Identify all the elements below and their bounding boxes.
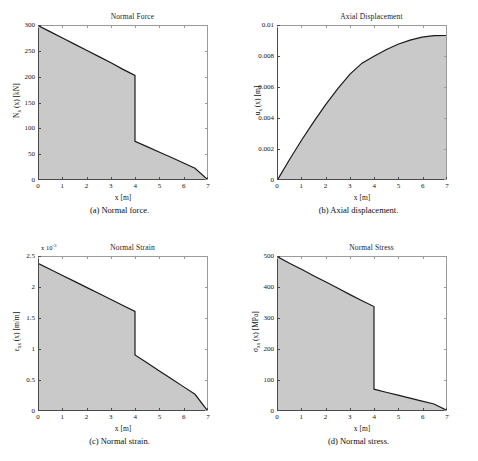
ytick-mark-b-0 — [277, 179, 280, 180]
ytick-label-d-0: 0 — [271, 407, 275, 415]
xtick-label-d-5: 5 — [397, 413, 401, 421]
ytick-mark-d-2 — [277, 349, 280, 350]
xtick-mark-top-b-1 — [301, 25, 302, 28]
ytick-mark-right-c-3 — [205, 318, 208, 319]
xtick-mark-top-a-2 — [87, 25, 88, 28]
xtick-mark-top-d-6 — [423, 256, 424, 259]
ytick-mark-d-4 — [277, 287, 280, 288]
panel-axial-displacement: Axial Displacement 0123456700.0020.0040.… — [239, 0, 478, 230]
xtick-mark-top-a-3 — [111, 25, 112, 28]
ytick-mark-right-c-0 — [205, 410, 208, 411]
ytick-mark-right-a-6 — [205, 25, 208, 26]
xtick-label-b-5: 5 — [397, 182, 401, 190]
xtick-mark-top-b-2 — [326, 25, 327, 28]
ytick-label-d-4: 400 — [264, 283, 275, 291]
ytick-mark-right-a-0 — [205, 179, 208, 180]
xtick-mark-b-3 — [350, 177, 351, 180]
xtick-label-c-2: 2 — [85, 413, 89, 421]
ytick-label-b-5: 0.01 — [262, 21, 274, 29]
ylabel-d: σxx (x) [MPa] — [251, 287, 260, 377]
caption-d: (d) Normal stress. — [239, 436, 478, 446]
ylabel-a-suffix: (x) [kN] — [12, 83, 21, 110]
ytick-mark-a-2 — [38, 128, 41, 129]
xtick-mark-top-c-5 — [159, 256, 160, 259]
ylabel-a-sub: x — [16, 110, 22, 113]
ytick-mark-b-5 — [277, 25, 280, 26]
ytick-mark-d-0 — [277, 410, 280, 411]
xtick-mark-a-5 — [159, 177, 160, 180]
caption-c: (c) Normal strain. — [0, 436, 239, 446]
ytick-mark-c-2 — [38, 349, 41, 350]
ytick-mark-right-b-1 — [444, 149, 447, 150]
ytick-label-a-5: 250 — [25, 47, 36, 55]
ytick-mark-right-b-4 — [444, 56, 447, 57]
ylabel-c-prefix: ε — [12, 348, 21, 351]
xtick-label-a-5: 5 — [158, 182, 162, 190]
xtick-mark-top-b-6 — [423, 25, 424, 28]
ticks-c: 0123456700.511.522.5 — [38, 256, 208, 411]
xtick-mark-top-a-4 — [135, 25, 136, 28]
xtick-mark-d-5 — [398, 408, 399, 411]
ytick-label-d-1: 100 — [264, 376, 275, 384]
xtick-label-c-1: 1 — [61, 413, 65, 421]
ytick-mark-a-5 — [38, 51, 41, 52]
ytick-label-a-0: 0 — [32, 176, 36, 184]
xtick-label-c-5: 5 — [158, 413, 162, 421]
ytick-mark-b-4 — [277, 56, 280, 57]
ytick-label-c-0: 0 — [32, 407, 36, 415]
ytick-mark-right-a-1 — [205, 154, 208, 155]
ytick-mark-right-d-5 — [444, 256, 447, 257]
ylabel-a: Nx (x) [kN] — [12, 58, 21, 144]
ytick-mark-b-3 — [277, 87, 280, 88]
xtick-mark-top-d-4 — [374, 256, 375, 259]
xlabel-d: x [m] — [277, 424, 447, 433]
xtick-mark-top-d-3 — [350, 256, 351, 259]
xtick-label-a-2: 2 — [85, 182, 89, 190]
plot-title-c: Normal Strain — [38, 243, 227, 252]
xtick-mark-top-d-5 — [398, 256, 399, 259]
ytick-mark-a-3 — [38, 103, 41, 104]
ytick-label-d-3: 300 — [264, 314, 275, 322]
xtick-label-b-2: 2 — [324, 182, 328, 190]
caption-b: (b) Axial displacement. — [239, 205, 478, 215]
xtick-mark-top-b-3 — [350, 25, 351, 28]
xtick-mark-top-c-6 — [184, 256, 185, 259]
ytick-mark-right-d-3 — [444, 318, 447, 319]
xtick-mark-c-6 — [184, 408, 185, 411]
plot-title-a: Normal Force — [38, 12, 227, 21]
xtick-mark-a-3 — [111, 177, 112, 180]
ytick-mark-right-d-1 — [444, 380, 447, 381]
xtick-mark-c-1 — [62, 408, 63, 411]
xtick-label-b-7: 7 — [445, 182, 449, 190]
xtick-label-a-1: 1 — [61, 182, 65, 190]
ytick-label-a-4: 200 — [25, 73, 36, 81]
ytick-mark-a-6 — [38, 25, 41, 26]
xtick-label-c-0: 0 — [36, 413, 40, 421]
xtick-label-c-3: 3 — [109, 413, 113, 421]
ytick-mark-right-c-1 — [205, 380, 208, 381]
xtick-mark-c-4 — [135, 408, 136, 411]
ytick-mark-right-b-0 — [444, 179, 447, 180]
xtick-mark-top-d-1 — [301, 256, 302, 259]
xtick-mark-a-4 — [135, 177, 136, 180]
xtick-mark-b-1 — [301, 177, 302, 180]
xtick-mark-d-1 — [301, 408, 302, 411]
xtick-mark-top-b-4 — [374, 25, 375, 28]
xtick-label-b-6: 6 — [421, 182, 425, 190]
ylabel-d-sub: xx — [255, 343, 261, 348]
ylabel-b-prefix: u — [253, 112, 262, 116]
xtick-label-d-1: 1 — [300, 413, 304, 421]
ytick-mark-c-1 — [38, 380, 41, 381]
xtick-mark-c-2 — [87, 408, 88, 411]
xtick-mark-d-6 — [423, 408, 424, 411]
xtick-label-c-6: 6 — [182, 413, 186, 421]
ytick-mark-d-1 — [277, 380, 280, 381]
ticks-b: 0123456700.0020.0040.0060.0080.01 — [277, 25, 447, 180]
ytick-label-a-2: 100 — [25, 124, 36, 132]
xlabel-a: x [m] — [38, 193, 208, 202]
ytick-mark-c-0 — [38, 410, 41, 411]
exponent-label-c: x 10-3 — [41, 243, 57, 251]
figure-container: Normal Force 01234567050100150200250300 … — [0, 0, 478, 461]
xtick-mark-top-c-3 — [111, 256, 112, 259]
xtick-mark-b-4 — [374, 177, 375, 180]
